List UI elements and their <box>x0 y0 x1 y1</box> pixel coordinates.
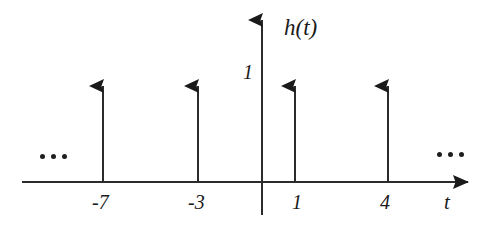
right-ellipsis <box>437 152 464 157</box>
function-label: h(t) <box>284 16 317 39</box>
tick-label-minus7: -7 <box>92 192 109 212</box>
x-axis-label: t <box>444 192 450 213</box>
impulse-train-figure: h(t) 1 -7 -3 1 4 t <box>0 0 488 234</box>
ellipsis-dot <box>459 152 464 157</box>
ellipsis-dot <box>448 152 453 157</box>
signal-plot-canvas <box>0 0 488 234</box>
tick-label-one: 1 <box>292 192 302 212</box>
left-ellipsis <box>40 154 67 159</box>
tick-label-four: 4 <box>380 192 390 212</box>
ellipsis-dot <box>51 154 56 159</box>
ellipsis-dot <box>62 154 67 159</box>
tick-label-minus3: -3 <box>188 192 205 212</box>
amplitude-label: 1 <box>243 62 253 82</box>
ellipsis-dot <box>40 154 45 159</box>
ellipsis-dot <box>437 152 442 157</box>
